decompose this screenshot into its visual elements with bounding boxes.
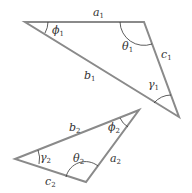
side-b2-label: b2 xyxy=(69,121,81,135)
side-c2-label: c2 xyxy=(45,175,56,189)
angle-phi2-label: ϕ2 xyxy=(108,121,120,135)
two-triangles-diagram: a1 b1 c1 ϕ1 θ1 γ1 b2 a2 c2 ϕ2 γ2 θ2 xyxy=(0,0,192,193)
angle-gamma2-label: γ2 xyxy=(40,151,51,165)
angle-phi1-label: ϕ1 xyxy=(52,24,64,38)
angle-arc-phi1 xyxy=(45,22,48,33)
side-b1-label: b1 xyxy=(84,69,96,83)
triangle-1 xyxy=(25,22,179,117)
angle-theta2-label: θ2 xyxy=(73,152,84,166)
side-c1-label: c1 xyxy=(161,48,172,62)
angle-arc-gamma1 xyxy=(154,95,171,103)
side-a2-label: a2 xyxy=(110,152,121,166)
triangle-2 xyxy=(15,110,139,182)
side-a1-label: a1 xyxy=(93,6,104,20)
angle-gamma1-label: γ1 xyxy=(148,78,159,92)
